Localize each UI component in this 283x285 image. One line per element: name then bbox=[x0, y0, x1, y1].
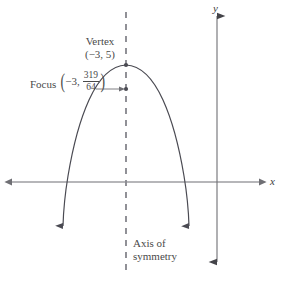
vertex-label-coordinates: (−3, 5) bbox=[85, 48, 115, 60]
parabola-figure: Vertex (−3, 5) Focus (−3,31964) Axis of … bbox=[0, 0, 283, 285]
axis-of-symmetry-label-line2: symmetry bbox=[133, 250, 203, 263]
vertex-label-name: Vertex bbox=[86, 35, 115, 47]
vertex-label: Vertex (−3, 5) bbox=[68, 35, 132, 61]
focus-fraction: 31964 bbox=[82, 70, 100, 92]
x-axis-label: x bbox=[270, 175, 275, 188]
focus-coord-x: −3, bbox=[65, 76, 81, 87]
focus-point bbox=[124, 87, 128, 91]
axis-of-symmetry-label: Axis of symmetry bbox=[133, 237, 203, 263]
focus-label: Focus (−3,31964) bbox=[30, 70, 100, 92]
focus-paren-left: ( bbox=[60, 70, 65, 92]
focus-fraction-denominator: 64 bbox=[85, 82, 97, 92]
focus-label-name: Focus bbox=[30, 78, 56, 90]
axis-of-symmetry-label-line1: Axis of bbox=[133, 237, 166, 249]
parabola-right-branch bbox=[126, 65, 189, 226]
focus-label-coordinates: (−3,31964) bbox=[59, 70, 106, 92]
focus-paren-right: ) bbox=[100, 70, 105, 92]
focus-fraction-numerator: 319 bbox=[83, 70, 99, 80]
vertex-point bbox=[124, 63, 128, 67]
y-axis-label: y bbox=[213, 2, 218, 15]
